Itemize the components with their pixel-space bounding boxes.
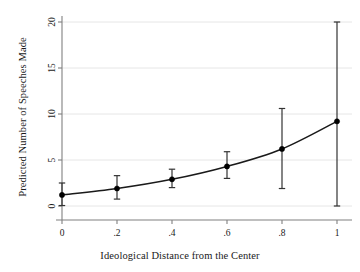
x-tick-label: 0 (60, 228, 65, 238)
y-tick-label: 5 (47, 157, 57, 162)
chart-figure: 0.2.4.6.81 05101520 Ideological Distance… (0, 0, 360, 272)
x-tick-label: .2 (113, 228, 120, 238)
tick-marks (58, 22, 337, 224)
y-axis-title: Predicted Number of Speeches Made (17, 2, 28, 232)
data-point-marker (279, 146, 284, 151)
series-line (62, 121, 337, 195)
x-tick-label: .8 (278, 228, 285, 238)
y-tick-label: 0 (47, 203, 57, 208)
y-tick-label: 10 (47, 109, 57, 119)
data-point-markers (59, 119, 339, 198)
x-axis-title: Ideological Distance from the Center (0, 250, 360, 261)
axis-lines (56, 16, 352, 220)
x-tick-label: .4 (168, 228, 175, 238)
chart-plot-area: 0.2.4.6.81 05101520 (0, 0, 360, 272)
x-tick-labels: 0.2.4.6.81 (60, 228, 340, 238)
data-point-marker (114, 186, 119, 191)
data-point-marker (169, 177, 174, 182)
y-tick-label: 15 (47, 63, 57, 73)
y-tick-label: 20 (47, 17, 57, 27)
data-point-marker (224, 164, 229, 169)
y-tick-labels: 05101520 (47, 17, 57, 208)
data-point-marker (59, 192, 64, 197)
prediction-line (62, 121, 337, 195)
gridlines (62, 22, 352, 206)
x-tick-label: 1 (335, 228, 340, 238)
data-point-marker (334, 119, 339, 124)
x-tick-label: .6 (223, 228, 230, 238)
